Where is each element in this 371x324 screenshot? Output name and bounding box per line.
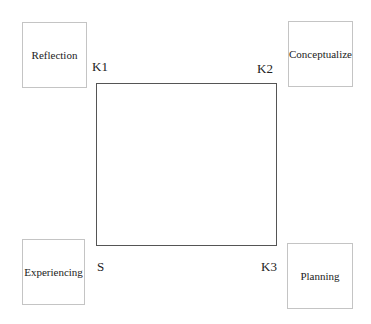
node-label: Experiencing — [24, 266, 83, 278]
corner-label-k2: K2 — [257, 62, 273, 75]
central-square — [96, 83, 277, 246]
node-planning: Planning — [287, 243, 353, 309]
corner-label-k3: K3 — [261, 260, 277, 273]
node-reflection: Reflection — [22, 22, 87, 88]
node-label: Reflection — [32, 49, 78, 61]
corner-label-k1: K1 — [92, 60, 108, 73]
node-conceptualize: Conceptualize — [288, 21, 353, 87]
corner-label-s: S — [97, 260, 104, 273]
node-experiencing: Experiencing — [22, 239, 85, 305]
node-label: Conceptualize — [289, 48, 352, 60]
node-label: Planning — [300, 270, 339, 282]
